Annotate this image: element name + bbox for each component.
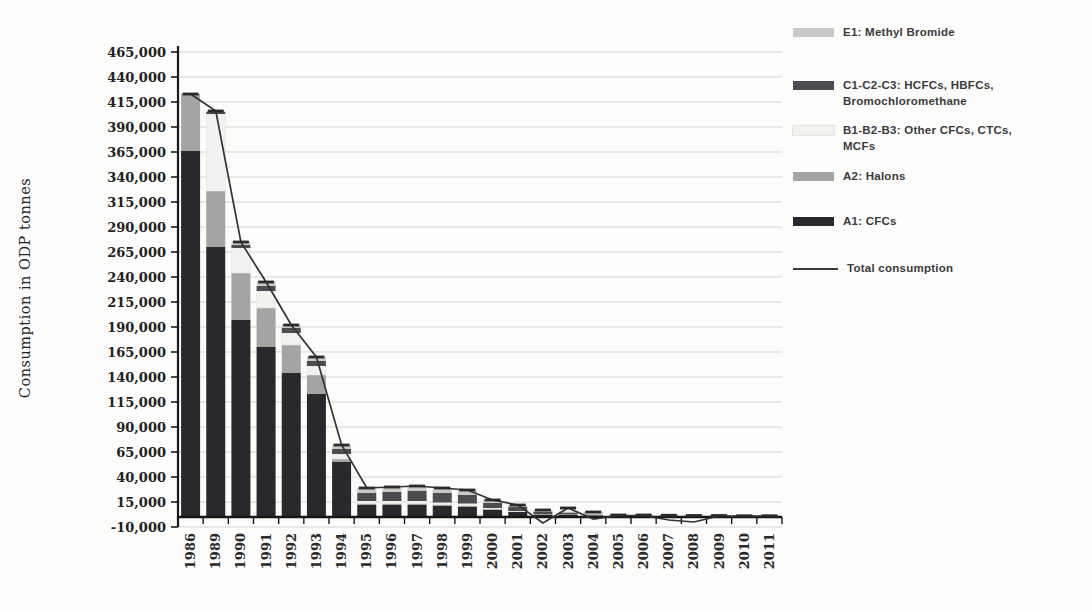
legend-label-total-consumption: Total consumption <box>847 261 953 277</box>
bar-segment <box>257 286 276 291</box>
bar-segment <box>559 515 578 516</box>
total-consumption-marker <box>459 489 475 492</box>
x-tick-label: 2009 <box>712 533 727 569</box>
y-tick-label: -10,000 <box>111 520 166 535</box>
bar-segment <box>357 493 376 501</box>
legend-item-total-consumption: Total consumption <box>793 261 953 277</box>
total-consumption-marker <box>610 514 626 517</box>
total-consumption-marker <box>334 444 350 447</box>
bar-segment <box>257 308 276 347</box>
bar-segment <box>458 504 477 506</box>
bar-segment <box>307 394 326 517</box>
bar-segment <box>206 114 225 191</box>
total-consumption-marker <box>384 486 400 489</box>
total-consumption-marker <box>585 511 601 514</box>
x-tick-label: 1993 <box>309 533 324 569</box>
bar-segment <box>433 493 452 503</box>
bar-segment <box>231 273 250 320</box>
total-consumption-marker <box>661 514 677 517</box>
total-consumption-line <box>191 94 770 523</box>
bar-segment <box>231 320 250 517</box>
bar-segment <box>483 508 502 509</box>
y-tick-label: 440,000 <box>107 70 166 85</box>
y-tick-label: 215,000 <box>107 295 166 310</box>
bar-segment <box>181 94 200 151</box>
bar-segment <box>533 512 552 515</box>
bar-segment <box>357 505 376 517</box>
x-tick-label: 1996 <box>384 533 399 569</box>
bar-segment <box>433 506 452 517</box>
y-tick-label: 265,000 <box>107 245 166 260</box>
legend-swatch-total-consumption-line <box>793 268 838 270</box>
x-tick-label: 1997 <box>410 533 425 569</box>
bar-segment <box>533 514 552 515</box>
x-tick-label: 1994 <box>334 533 349 569</box>
y-tick-label: 465,000 <box>107 45 166 60</box>
x-tick-label: 1989 <box>208 533 223 569</box>
total-consumption-marker <box>359 487 375 490</box>
bar-segment <box>231 245 250 248</box>
bar-segment <box>307 361 326 366</box>
x-tick-label: 2003 <box>561 533 576 569</box>
total-consumption-marker <box>233 241 249 244</box>
total-consumption-marker <box>308 356 324 359</box>
y-tick-label: 290,000 <box>107 220 166 235</box>
bar-segment <box>458 495 477 504</box>
legend-swatch-a1-cfcs <box>793 217 834 226</box>
legend-label-b1-b2-b3-other-cfcs: B1-B2-B3: Other CFCs, CTCs, MCFs <box>843 123 1012 154</box>
y-tick-label: 65,000 <box>116 445 166 460</box>
total-consumption-marker <box>560 507 576 510</box>
x-tick-label: 2000 <box>485 533 500 569</box>
y-axis-title: Consumption in ODP tonnes <box>17 178 33 398</box>
legend-swatch-e1-methyl-bromide <box>793 28 834 37</box>
y-tick-label: 165,000 <box>107 345 166 360</box>
x-tick-label: 2005 <box>611 533 626 569</box>
total-consumption-marker <box>485 499 501 502</box>
total-consumption-marker <box>736 514 752 517</box>
bar-segment <box>357 501 376 504</box>
bar-segment <box>332 459 351 462</box>
y-tick-label: 315,000 <box>107 195 166 210</box>
x-tick-label: 1998 <box>435 533 450 569</box>
x-tick-label: 2002 <box>535 533 550 569</box>
total-consumption-marker <box>510 504 526 507</box>
legend-label-e1-methyl-bromide: E1: Methyl Bromide <box>843 25 955 41</box>
bar-segment <box>332 462 351 517</box>
y-tick-label: 415,000 <box>107 95 166 110</box>
legend: E1: Methyl Bromide C1-C2-C3: HCFCs, HBFC… <box>793 0 1088 300</box>
legend-item-a1-cfcs: A1: CFCs <box>793 214 897 230</box>
y-tick-label: 240,000 <box>107 270 166 285</box>
bar-segment <box>282 345 301 373</box>
bar-segment <box>257 347 276 517</box>
y-tick-label: 15,000 <box>116 495 166 510</box>
bar-segment <box>408 505 427 517</box>
total-consumption-marker <box>535 509 551 512</box>
y-tick-label: 90,000 <box>116 420 166 435</box>
x-tick-label: 1990 <box>233 533 248 569</box>
total-consumption-marker <box>711 514 727 517</box>
total-consumption-marker <box>761 514 777 517</box>
x-tick-label: 2007 <box>661 533 676 569</box>
bar-segment <box>282 333 301 345</box>
total-consumption-marker <box>283 324 299 327</box>
y-tick-label: 365,000 <box>107 145 166 160</box>
x-tick-label: 2008 <box>686 533 701 569</box>
x-tick-label: 2004 <box>586 533 601 569</box>
y-tick-label: 340,000 <box>107 170 166 185</box>
y-tick-label: 115,000 <box>107 395 166 410</box>
bar-segment <box>382 501 401 504</box>
x-tick-label: 2001 <box>510 533 525 569</box>
y-tick-label: 390,000 <box>107 120 166 135</box>
bar-segment <box>206 247 225 517</box>
x-tick-label: 2011 <box>762 533 777 569</box>
legend-label-a1-cfcs: A1: CFCs <box>843 214 897 230</box>
bar-segment <box>408 501 427 504</box>
bar-segment <box>483 503 502 508</box>
total-consumption-marker <box>409 485 425 488</box>
legend-swatch-c1-c2-c3-hcfcs <box>793 81 834 90</box>
legend-item-a2-halons: A2: Halons <box>793 169 906 185</box>
bar-segment <box>458 507 477 517</box>
legend-swatch-a2-halons <box>793 172 834 181</box>
x-tick-label: 1999 <box>460 533 475 569</box>
legend-label-a2-halons: A2: Halons <box>843 169 906 185</box>
